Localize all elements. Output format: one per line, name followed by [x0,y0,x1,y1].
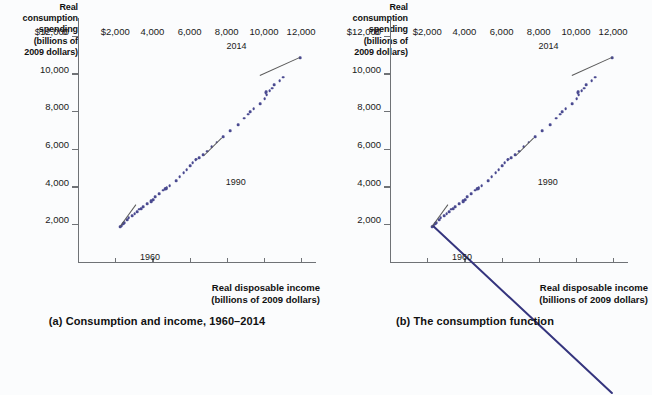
x-tick-12000 [301,258,302,263]
x-origin-label: 0 [62,26,67,37]
y-tick-4000 [384,186,390,187]
data-point [541,130,544,133]
annotation-leader-2014 [260,57,300,76]
panel-b-consumption-function: Realconsumptionspending(billions of2009 … [326,0,652,331]
y-tick-label-10000: 10,000 [40,63,69,74]
y-tick-label-2000: 2,000 [45,214,69,225]
data-point [158,193,161,196]
data-point [590,79,593,82]
y-tick-12000 [384,36,390,37]
data-point [249,110,252,113]
data-point [229,130,232,133]
x-axis-title-line-1: (billions of 2009 dollars) [539,294,648,306]
data-point [510,156,513,159]
data-point [497,169,500,172]
annotation-leader-1960 [432,204,449,227]
data-point [252,108,255,111]
data-point [258,103,261,106]
data-point [561,110,564,113]
y-tick-6000 [384,149,390,150]
data-point [189,165,192,168]
data-point [594,76,597,79]
data-point [580,89,583,92]
annotation-leader-1960 [120,204,137,227]
data-point [282,76,285,79]
data-point [549,123,552,126]
data-point [575,97,578,100]
data-point [263,97,266,100]
data-point [142,205,145,208]
x-axis-title-line-1: (billions of 2009 dollars) [211,294,320,306]
x-tick-label-2000: $2,000 [413,26,442,37]
y-tick-label-6000: 6,000 [45,138,69,149]
data-point [454,205,457,208]
data-point [503,161,506,164]
y-axis-title-line-4: 2009 dollars) [0,47,78,58]
data-point [564,108,567,111]
data-point [278,79,281,82]
data-point [237,123,240,126]
data-point [477,187,480,190]
data-point [464,199,467,202]
panel-b-x-axis-line [390,262,628,263]
annotation-label-1990: 1990 [226,177,246,187]
panel-a-x-axis-title: Real disposable income(billions of 2009 … [211,282,320,305]
data-point [246,113,249,116]
annotation-label-1990: 1990 [538,177,558,187]
y-axis-title-line-1: consumption [0,13,78,24]
x-tick-label-10000: 10,000 [249,26,278,37]
panel-b-plot-area: 2,0004,0006,0008,00010,000$12,0000$2,000… [390,18,628,263]
y-tick-label-8000: 8,000 [45,101,69,112]
annotation-leader-1990 [515,137,534,156]
x-tick-label-4000: 4,000 [140,26,164,37]
x-axis-title-line-0: Real disposable income [539,282,648,294]
data-point [185,169,188,172]
data-point [501,165,504,168]
y-tick-4000 [72,186,78,187]
y-axis-title-line-0: Real [324,2,408,13]
data-point [152,199,155,202]
data-point [555,117,558,120]
panel-a-y-axis-line [78,18,79,263]
data-point [487,180,490,183]
data-point [154,196,157,199]
panel-a-caption: (a) Consumption and income, 1960–2014 [0,315,320,327]
panel-b-caption: (b) The consumption function [312,315,638,327]
data-point [168,184,171,187]
data-point [583,87,586,90]
y-tick-label-8000: 8,000 [357,101,381,112]
y-tick-2000 [72,224,78,225]
y-tick-8000 [384,111,390,112]
annotation-leader-1990 [203,137,222,156]
data-point [243,117,246,120]
annotation-label-2014: 2014 [538,41,558,51]
x-tick-label-10000: 10,000 [561,26,590,37]
data-point [480,184,483,187]
panel-a-x-axis-line [78,262,316,263]
data-point [127,217,130,220]
y-tick-12000 [72,36,78,37]
data-point [165,187,168,190]
y-axis-title-line-3: (billions of [0,36,78,47]
y-tick-label-10000: 10,000 [352,63,381,74]
x-tick-8000 [539,258,540,263]
panel-b-y-axis-line [390,18,391,263]
panel-a-plot-area: 2,0004,0006,0008,00010,000$12,0000$2,000… [78,18,316,263]
data-point [439,217,442,220]
x-tick-12000 [613,258,614,263]
data-point [271,87,274,90]
x-axis-title-line-0: Real disposable income [211,282,320,294]
data-point [182,171,185,174]
data-point [273,84,276,87]
data-point [268,89,271,92]
x-origin-label: 0 [374,26,379,37]
data-point [585,84,588,87]
x-tick-label-8000: 8,000 [527,26,551,37]
y-tick-6000 [72,149,78,150]
data-point [577,90,580,93]
y-tick-label-6000: 6,000 [357,138,381,149]
y-axis-title-line-0: Real [0,2,78,13]
x-tick-label-8000: 8,000 [215,26,239,37]
y-tick-10000 [72,73,78,74]
